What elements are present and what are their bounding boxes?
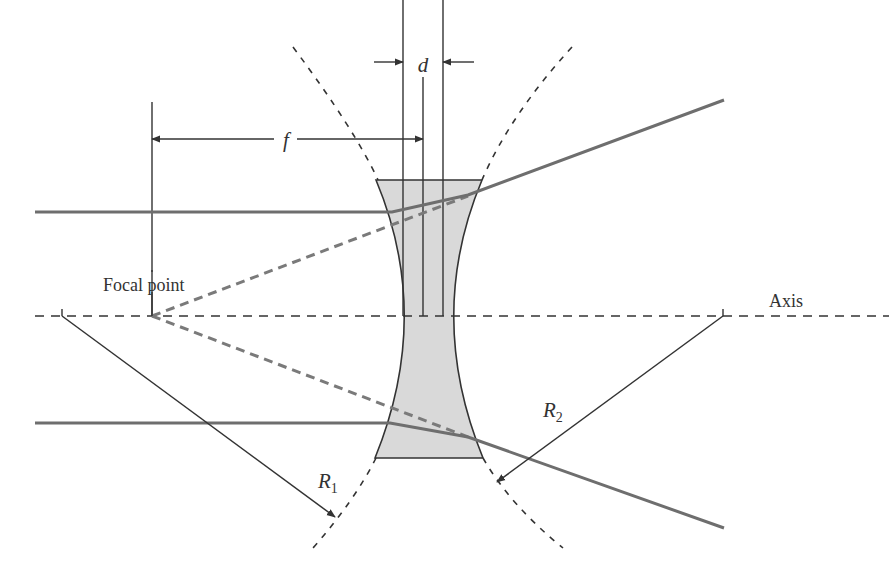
- thickness-dimension: d: [374, 53, 474, 77]
- ray-top: [35, 100, 724, 212]
- surface-arc-left: [293, 47, 378, 548]
- focal-point-label: Focal point: [103, 275, 185, 295]
- focal-length-label: f: [283, 128, 292, 152]
- axis-label: Axis: [769, 291, 803, 311]
- focal-length-dimension: f: [152, 128, 423, 152]
- radius-1: R1: [62, 309, 338, 517]
- lens-diagram: f d R1 R2 Focal point Axis: [0, 0, 889, 583]
- ray-bottom: [35, 423, 724, 528]
- thickness-label: d: [418, 53, 429, 77]
- radius-2-label: R2: [542, 398, 563, 425]
- lens: [375, 180, 483, 458]
- surface-arc-right: [482, 47, 572, 548]
- radius-2: R2: [497, 309, 723, 482]
- radius-1-label: R1: [317, 469, 338, 496]
